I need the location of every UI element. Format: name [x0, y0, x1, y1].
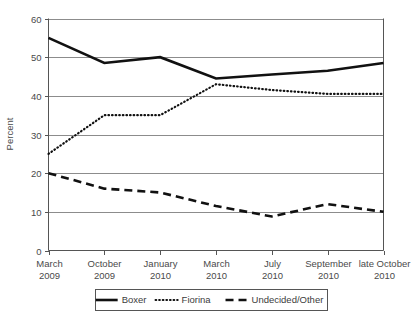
- x-tick-label-primary: March: [203, 258, 229, 269]
- y-tick-label: 0: [36, 246, 41, 257]
- x-tick-label-primary: October: [88, 258, 122, 269]
- x-tick-label-secondary: 2010: [374, 270, 395, 281]
- y-tick-label: 10: [31, 207, 42, 218]
- x-tick-label-secondary: 2010: [206, 270, 227, 281]
- x-tick-label-secondary: 2010: [262, 270, 283, 281]
- chart-legend: BoxerFiorinaUndecided/Other: [96, 290, 328, 311]
- x-tick-label-secondary: 2009: [39, 270, 60, 281]
- x-tick-label-primary: July: [264, 258, 281, 269]
- y-tick-label: 60: [31, 14, 42, 25]
- y-axis-title: Percent: [4, 117, 15, 150]
- x-tick-label-secondary: 2009: [94, 270, 115, 281]
- chart-canvas: 0102030405060 March2009October2009Januar…: [0, 0, 420, 322]
- x-tick-label-primary: late October: [359, 258, 411, 269]
- legend-label: Fiorina: [182, 294, 212, 305]
- y-tick-label: 20: [31, 168, 42, 179]
- x-tick-label-primary: March: [36, 258, 62, 269]
- legend-label: Undecided/Other: [252, 294, 324, 305]
- line-chart-figure: 0102030405060 March2009October2009Januar…: [0, 0, 420, 322]
- x-tick-label-secondary: 2010: [150, 270, 171, 281]
- x-tick-label-primary: January: [144, 258, 178, 269]
- y-tick-label: 40: [31, 91, 42, 102]
- legend-label: Boxer: [122, 294, 147, 305]
- x-tick-label-primary: September: [305, 258, 351, 269]
- y-tick-label: 50: [31, 52, 42, 63]
- x-tick-label-secondary: 2010: [318, 270, 339, 281]
- y-tick-label: 30: [31, 130, 42, 141]
